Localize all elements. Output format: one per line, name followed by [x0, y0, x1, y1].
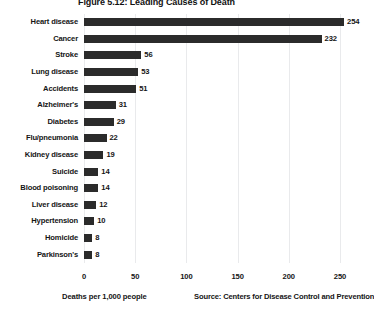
bar-row[interactable]: Blood poisoning14 [0, 180, 366, 197]
bar-wrapper [84, 234, 92, 242]
bar-row[interactable]: Suicide14 [0, 163, 366, 180]
bar[interactable] [84, 184, 98, 192]
bar-row[interactable]: Stroke56 [0, 47, 366, 64]
bar[interactable] [84, 68, 138, 76]
bar-value-label: 22 [110, 135, 118, 143]
bar-value-label: 232 [325, 35, 337, 43]
x-tick-label: 150 [231, 272, 243, 281]
x-tick-label: 100 [180, 272, 192, 281]
bar[interactable] [84, 251, 92, 259]
bar-row[interactable]: Accidents51 [0, 80, 366, 97]
bar[interactable] [84, 118, 114, 126]
x-tick-label: 0 [82, 272, 86, 281]
bar-row[interactable]: Alzheimer's31 [0, 97, 366, 114]
bar-wrapper [84, 118, 114, 126]
bar-value-label: 14 [101, 168, 109, 176]
bar[interactable] [84, 168, 98, 176]
bar-wrapper [84, 101, 116, 109]
category-label: Hypertension [0, 218, 78, 226]
bar-value-label: 29 [117, 118, 125, 126]
bar[interactable] [84, 85, 136, 93]
x-tick-label: 50 [131, 272, 139, 281]
bar-value-label: 10 [97, 218, 105, 226]
bar-wrapper [84, 85, 136, 93]
plot-area: Heart disease254Cancer232Stroke56Lung di… [84, 14, 340, 263]
category-label: Stroke [0, 52, 78, 60]
bar-wrapper [84, 184, 98, 192]
category-label: Alzheimer's [0, 102, 78, 110]
category-label: Parkinson's [0, 251, 78, 259]
category-label: Cancer [0, 35, 78, 43]
bar-row[interactable]: Flu/pneumonia22 [0, 130, 366, 147]
bar-wrapper [84, 201, 96, 209]
bar[interactable] [84, 134, 107, 142]
bar[interactable] [84, 151, 103, 159]
bar-value-label: 31 [119, 102, 127, 110]
bar-row[interactable]: Lung disease53 [0, 64, 366, 81]
bar[interactable] [84, 51, 141, 59]
bar-wrapper [84, 35, 322, 43]
bar-value-label: 56 [144, 52, 152, 60]
x-tick-label: 250 [334, 272, 346, 281]
bar-wrapper [84, 168, 98, 176]
bar-row[interactable]: Homicide8 [0, 230, 366, 247]
category-label: Diabetes [0, 118, 78, 126]
category-label: Kidney disease [0, 151, 78, 159]
x-axis: 050100150200250 [84, 272, 340, 284]
source-note: Source: Centers for Disease Control and … [194, 292, 374, 301]
category-label: Heart disease [0, 19, 78, 27]
bar-wrapper [84, 151, 103, 159]
bar-wrapper [84, 68, 138, 76]
x-tick-label: 200 [283, 272, 295, 281]
bar[interactable] [84, 201, 96, 209]
bar-value-label: 8 [95, 251, 99, 259]
category-label: Accidents [0, 85, 78, 93]
bar-wrapper [84, 251, 92, 259]
bar-row[interactable]: Cancer232 [0, 31, 366, 48]
category-label: Liver disease [0, 201, 78, 209]
bar-wrapper [84, 18, 344, 26]
category-label: Homicide [0, 234, 78, 242]
bar-row[interactable]: Diabetes29 [0, 114, 366, 131]
chart-title: Figure 5.12: Leading Causes of Death [78, 0, 235, 7]
bar-value-label: 8 [95, 234, 99, 242]
bar-row[interactable]: Hypertension10 [0, 213, 366, 230]
x-axis-label: Deaths per 1,000 people [62, 292, 147, 301]
bar-row[interactable]: Parkinson's8 [0, 246, 366, 263]
bar-wrapper [84, 217, 94, 225]
category-label: Suicide [0, 168, 78, 176]
bar-row[interactable]: Kidney disease19 [0, 147, 366, 164]
bar-value-label: 53 [141, 68, 149, 76]
bar-value-label: 254 [347, 19, 359, 27]
bar[interactable] [84, 18, 344, 26]
bar-value-label: 12 [99, 201, 107, 209]
bar[interactable] [84, 35, 322, 43]
bar-value-label: 51 [139, 85, 147, 93]
bar-wrapper [84, 134, 107, 142]
category-label: Lung disease [0, 68, 78, 76]
bar-value-label: 19 [106, 151, 114, 159]
bar-value-label: 14 [101, 185, 109, 193]
category-label: Flu/pneumonia [0, 135, 78, 143]
bar[interactable] [84, 101, 116, 109]
bar-wrapper [84, 51, 141, 59]
bar[interactable] [84, 217, 94, 225]
bar-row[interactable]: Heart disease254 [0, 14, 366, 31]
bar[interactable] [84, 234, 92, 242]
bar-row[interactable]: Liver disease12 [0, 197, 366, 214]
category-label: Blood poisoning [0, 185, 78, 193]
